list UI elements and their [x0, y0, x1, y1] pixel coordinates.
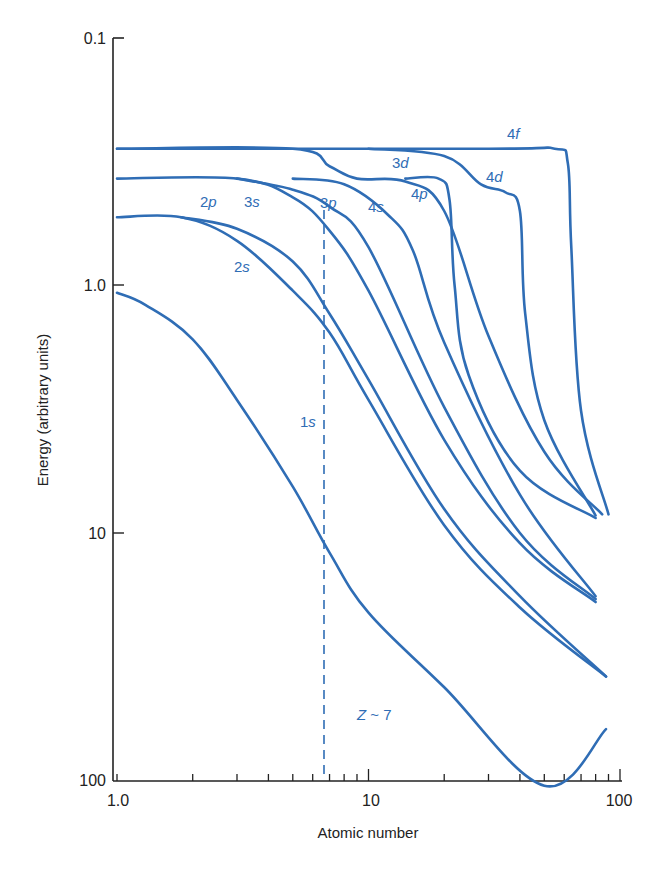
orbital-curves	[117, 147, 609, 786]
x-tick-100: 100	[606, 792, 633, 809]
y-axis-title: Energy (arbitrary units)	[34, 334, 51, 487]
y-axis: 0.1 1.0 10 100 Energy (arbitrary units)	[34, 30, 124, 789]
x-tick-10: 10	[362, 792, 380, 809]
label-2p: 2p	[200, 193, 217, 210]
y-tick-10: 10	[88, 525, 106, 542]
x-axis: 1.0 10 100 Atomic number	[107, 769, 633, 841]
label-3p: 3p	[320, 194, 337, 211]
y-tick-1: 1.0	[84, 277, 106, 294]
label-2s: 2s	[234, 258, 250, 275]
chart-canvas: 0.1 1.0 10 100 Energy (arbitrary units) …	[0, 0, 666, 874]
z7-annotation: Z ~ 7	[356, 706, 392, 723]
y-tick-0.1: 0.1	[84, 30, 106, 47]
label-4p: 4p	[411, 185, 428, 202]
label-4f: 4f	[507, 125, 521, 142]
label-1s: 1s	[300, 413, 316, 430]
label-3s: 3s	[244, 193, 260, 210]
y-tick-100: 100	[79, 772, 106, 789]
curve-4f	[117, 148, 609, 515]
label-4d: 4d	[486, 168, 503, 185]
x-axis-title: Atomic number	[318, 824, 419, 841]
energy-level-chart: 0.1 1.0 10 100 Energy (arbitrary units) …	[0, 0, 666, 874]
x-tick-1: 1.0	[107, 792, 129, 809]
label-4s: 4s	[368, 198, 384, 215]
curve-3d	[117, 147, 602, 514]
label-3d: 3d	[392, 154, 409, 171]
